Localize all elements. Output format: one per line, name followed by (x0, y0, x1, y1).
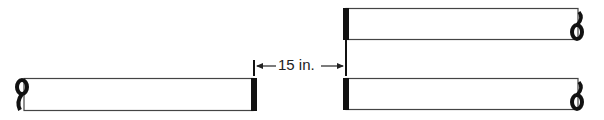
loop-icon (17, 80, 27, 110)
left-bar (17, 78, 257, 111)
top-right-bar (343, 8, 582, 40)
loop-icon (572, 82, 582, 109)
loop-icon (572, 12, 582, 39)
dimension-label: 15 in. (277, 57, 316, 73)
bottom-right-bar (343, 78, 582, 110)
